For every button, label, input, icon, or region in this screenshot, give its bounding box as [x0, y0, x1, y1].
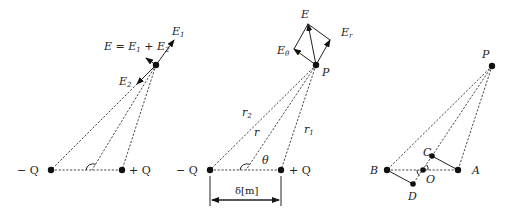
- pb-line: [387, 66, 492, 170]
- p-label: P: [321, 66, 330, 79]
- e1-label: E1: [171, 25, 185, 39]
- pos-charge-label: + Q: [289, 164, 311, 177]
- p-label: P: [481, 48, 490, 61]
- r1-line: [281, 65, 316, 170]
- r1-label: r1: [304, 123, 314, 137]
- point-p-dot: [313, 62, 319, 68]
- e-label: E: [300, 8, 309, 21]
- pc-line: [432, 66, 492, 156]
- pos-charge-dot: [278, 167, 284, 173]
- neg-charge-dot: [207, 167, 213, 173]
- point-p-dot: [489, 63, 495, 69]
- angle-arc-upper: [427, 165, 429, 170]
- point-d-dot: [410, 181, 416, 187]
- e-r-label: Er: [340, 26, 353, 40]
- r2-label: r2: [242, 106, 252, 120]
- c-label: C: [423, 146, 432, 159]
- r-label: r: [254, 126, 260, 139]
- a-label: A: [471, 164, 480, 177]
- e-theta-label: Eθ: [276, 44, 290, 58]
- r-line: [246, 65, 316, 170]
- e2-label: E2: [118, 75, 132, 89]
- e-r-vector-arrow: [316, 40, 330, 65]
- separation-label: δ[m]: [235, 185, 258, 196]
- parallelogram-side-left: [294, 24, 308, 49]
- dipole-field-diagrams: E = E1 + E2 E1 E2 − Q + Q E Eθ Er P r2 r…: [0, 0, 510, 216]
- b-label: B: [369, 164, 378, 177]
- neg-charge-dot: [48, 167, 54, 173]
- angle-arc-lower: [417, 170, 420, 176]
- middle-diagram: E Eθ Er P r2 r r1 θ − Q + Q δ[m]: [176, 8, 353, 206]
- e-theta-vector-arrow: [294, 49, 316, 65]
- ca-segment: [432, 156, 458, 170]
- point-b-dot: [384, 167, 390, 173]
- pos-charge-dot: [119, 167, 125, 173]
- parallelogram-side-right: [308, 24, 330, 40]
- point-o-dot: [420, 167, 426, 173]
- e2-vector-arrow: [137, 65, 156, 84]
- right-diagram: P B A O C D: [369, 48, 495, 203]
- o-label: O: [426, 173, 435, 186]
- field-point-dot: [153, 62, 159, 68]
- point-a-dot: [455, 167, 461, 173]
- neg-charge-label: − Q: [17, 164, 39, 177]
- neg-charge-label: − Q: [176, 164, 198, 177]
- bd-segment: [387, 170, 413, 184]
- e-vector-arrow: [308, 24, 316, 65]
- pos-charge-label: + Q: [129, 164, 151, 177]
- theta-label: θ: [262, 154, 269, 167]
- pa-line: [458, 66, 492, 170]
- resultant-label: E = E1 + E2: [103, 40, 170, 54]
- d-label: D: [407, 190, 417, 203]
- left-diagram: E = E1 + E2 E1 E2 − Q + Q: [17, 25, 185, 177]
